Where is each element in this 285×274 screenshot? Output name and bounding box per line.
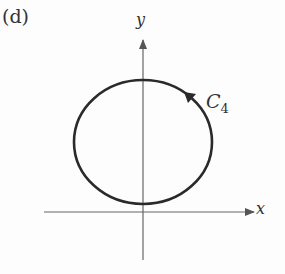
curve-label-main: C bbox=[206, 90, 221, 112]
x-axis-label: x bbox=[256, 199, 265, 218]
curve-label-subscript: 4 bbox=[221, 101, 229, 116]
panel-label: (d) bbox=[2, 5, 29, 27]
figure: (d) y x C4 bbox=[0, 0, 285, 274]
diagram-canvas bbox=[0, 0, 285, 274]
curve-label: C4 bbox=[206, 90, 229, 116]
y-axis-label: y bbox=[136, 10, 145, 29]
